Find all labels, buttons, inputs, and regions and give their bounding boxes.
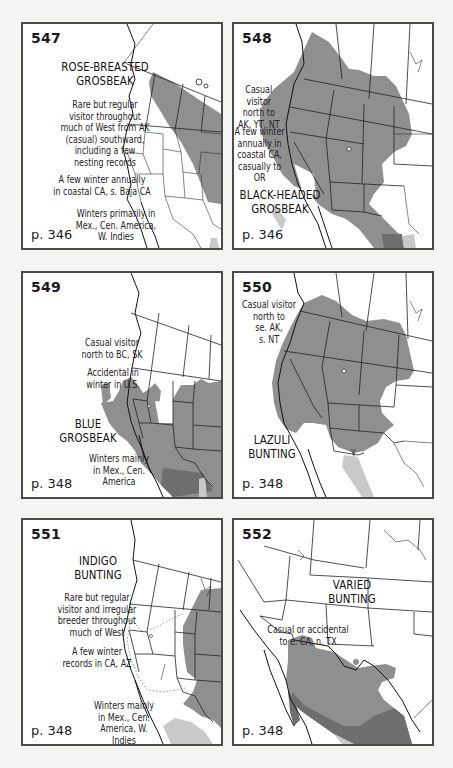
- note-line: records in CA, AZ: [59, 658, 136, 670]
- map-number: 550: [242, 279, 272, 295]
- title-line: GROSBEAK: [51, 431, 125, 445]
- range-note-1: Casual visitor north to se. AK, s. NT: [241, 299, 297, 345]
- note-line: A few winter annually: [50, 174, 154, 186]
- note-line: (casual) southward,: [57, 134, 153, 146]
- range-note-2: A few winter annually in coastal CA, cas…: [234, 126, 285, 184]
- note-line: Accidental in: [79, 367, 146, 379]
- map-number: 548: [242, 30, 272, 46]
- note-line: Casual visitor: [76, 337, 148, 349]
- note-line: in coastal CA, s. Baja CA: [50, 186, 154, 198]
- note-line: se. AK,: [241, 322, 297, 334]
- note-line: much of West: [52, 627, 142, 639]
- range-note-1: Casual visitor north to AK, YT, NT: [234, 84, 284, 130]
- note-line: to e. CA, n. TX: [260, 636, 356, 648]
- note-line: casually to OR: [234, 161, 285, 184]
- range-map-550-lazuli-bunting: 550 Casual visitor north to se. AK, s. N…: [232, 271, 434, 499]
- note-line: much of West from AK: [57, 122, 153, 134]
- note-line: nesting records: [57, 157, 153, 169]
- title-line: INDIGO: [61, 554, 135, 568]
- map-number: 552: [242, 526, 272, 542]
- title-line: ROSE-BREASTED: [56, 60, 154, 74]
- range-map-547-rose-breasted-grosbeak: 547 ROSE-BREASTED GROSBEAK Rare but regu…: [21, 22, 223, 250]
- species-title: VARIED BUNTING: [319, 578, 385, 606]
- note-line: Rare but regular: [57, 99, 153, 111]
- range-note-3: Winters primarily in Mex., Cen. America,…: [72, 208, 160, 243]
- range-map-548-black-headed-grosbeak: 548 Casual visitor north to AK, YT, NT A…: [232, 22, 434, 250]
- range-note-1: Rare but regular visitor throughout much…: [57, 99, 153, 168]
- note-line: north to: [241, 311, 297, 323]
- note-line: Casual visitor: [234, 84, 284, 107]
- title-line: GROSBEAK: [56, 74, 154, 88]
- note-line: annually in: [234, 138, 285, 150]
- range-note-1: Rare but regular visitor and irregular b…: [52, 592, 142, 638]
- note-line: north to BC, SK: [76, 349, 148, 361]
- note-line: visitor and irregular: [52, 604, 142, 616]
- note-line: breeder throughout: [52, 615, 142, 627]
- page-reference: p. 348: [31, 723, 72, 738]
- title-line: BUNTING: [319, 592, 385, 606]
- map-number: 551: [31, 526, 61, 542]
- map-number: 549: [31, 279, 61, 295]
- species-title: LAZULI BUNTING: [247, 433, 296, 461]
- note-line: winter in U.S.: [79, 379, 146, 391]
- page-reference: p. 346: [242, 227, 283, 242]
- range-note-1: Casual or accidental to e. CA, n. TX: [260, 624, 356, 647]
- note-line: Rare but regular: [52, 592, 142, 604]
- page-reference: p. 348: [242, 476, 283, 491]
- map-number: 547: [31, 30, 61, 46]
- note-line: in Mex., Cen.: [88, 712, 160, 724]
- title-line: BUNTING: [247, 447, 296, 461]
- note-line: America: [87, 476, 151, 488]
- note-line: s. NT: [241, 334, 297, 346]
- note-line: Winters primarily in: [72, 208, 160, 220]
- title-line: BUNTING: [61, 568, 135, 582]
- title-line: LAZULI: [247, 433, 296, 447]
- range-note-1: Casual visitor north to BC, SK: [76, 337, 148, 360]
- range-map-551-indigo-bunting: 551 INDIGO BUNTING Rare but regular visi…: [21, 518, 223, 746]
- note-line: Casual visitor: [241, 299, 297, 311]
- page-reference: p. 346: [31, 227, 72, 242]
- note-line: north to: [234, 107, 284, 119]
- note-line: visitor throughout: [57, 111, 153, 123]
- page-reference: p. 348: [31, 476, 72, 491]
- range-map-552-varied-bunting: 552 VARIED BUNTING Casual or accidental …: [232, 518, 434, 746]
- range-note-3: Winters mainly in Mex., Cen. America: [87, 453, 151, 488]
- range-map-549-blue-grosbeak: 549 Casual visitor north to BC, SK Accid…: [21, 271, 223, 499]
- title-line: BLACK-HEADED: [239, 188, 321, 202]
- title-line: VARIED: [319, 578, 385, 592]
- range-note-3: Winters mainly in Mex., Cen. America, W.…: [88, 700, 160, 746]
- range-note-2: Accidental in winter in U.S.: [79, 367, 146, 390]
- species-title: BLUE GROSBEAK: [51, 417, 125, 445]
- note-line: coastal CA,: [234, 149, 285, 161]
- note-line: Winters mainly: [87, 453, 151, 465]
- page-reference: p. 348: [242, 723, 283, 738]
- note-line: including a few: [57, 145, 153, 157]
- note-line: Casual or accidental: [260, 624, 356, 636]
- note-line: Winters mainly: [88, 700, 160, 712]
- title-line: GROSBEAK: [239, 202, 321, 216]
- note-line: in Mex., Cen.: [87, 465, 151, 477]
- range-note-2: A few winter annually in coastal CA, s. …: [50, 174, 154, 197]
- species-title: INDIGO BUNTING: [61, 554, 135, 582]
- range-note-2: A few winter records in CA, AZ: [59, 646, 136, 669]
- species-title: ROSE-BREASTED GROSBEAK: [56, 60, 154, 88]
- note-line: America, W. Indies: [88, 723, 160, 746]
- note-line: A few winter: [59, 646, 136, 658]
- species-title: BLACK-HEADED GROSBEAK: [239, 188, 321, 216]
- note-line: A few winter: [234, 126, 285, 138]
- note-line: Mex., Cen. America,: [72, 220, 160, 232]
- note-line: W. Indies: [72, 231, 160, 243]
- title-line: BLUE: [51, 417, 125, 431]
